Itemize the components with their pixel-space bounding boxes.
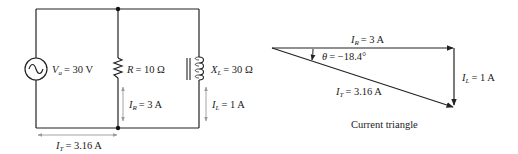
source-voltage-label: Va= 30 V bbox=[52, 64, 93, 77]
resistor-label: R= 10 Ω bbox=[126, 64, 165, 75]
triangle-caption: Current triangle bbox=[351, 119, 418, 130]
ac-source-icon bbox=[25, 58, 47, 80]
diagram-canvas: Va= 30 V R= 10 Ω XL= 30 Ω IR= 3 A IL= 1 … bbox=[0, 0, 518, 154]
it-label: IT= 3.16 A bbox=[335, 86, 382, 99]
junction-node-bottom bbox=[116, 126, 120, 130]
il-label: IL= 1 A bbox=[461, 72, 495, 85]
angle-arc-icon bbox=[312, 49, 313, 60]
junction-node-top bbox=[116, 7, 120, 11]
resistor-icon bbox=[114, 58, 122, 78]
inductor-current-label: IL= 1 A bbox=[211, 99, 245, 112]
parallel-rl-circuit: Va= 30 V R= 10 Ω XL= 30 Ω IR= 3 A IL= 1 … bbox=[25, 7, 253, 153]
resistor-current-label: IR= 3 A bbox=[128, 99, 163, 112]
inductor-icon bbox=[187, 57, 204, 80]
ir-label: IR= 3 A bbox=[350, 34, 385, 47]
angle-label: θ= −18.4° bbox=[322, 51, 366, 62]
current-triangle: IR= 3 A θ= −18.4° IL= 1 A IT= 3.16 A Cur… bbox=[272, 34, 495, 130]
total-current-label: IT= 3.16 A bbox=[55, 140, 102, 153]
inductor-reactance-label: XL= 30 Ω bbox=[210, 64, 253, 77]
